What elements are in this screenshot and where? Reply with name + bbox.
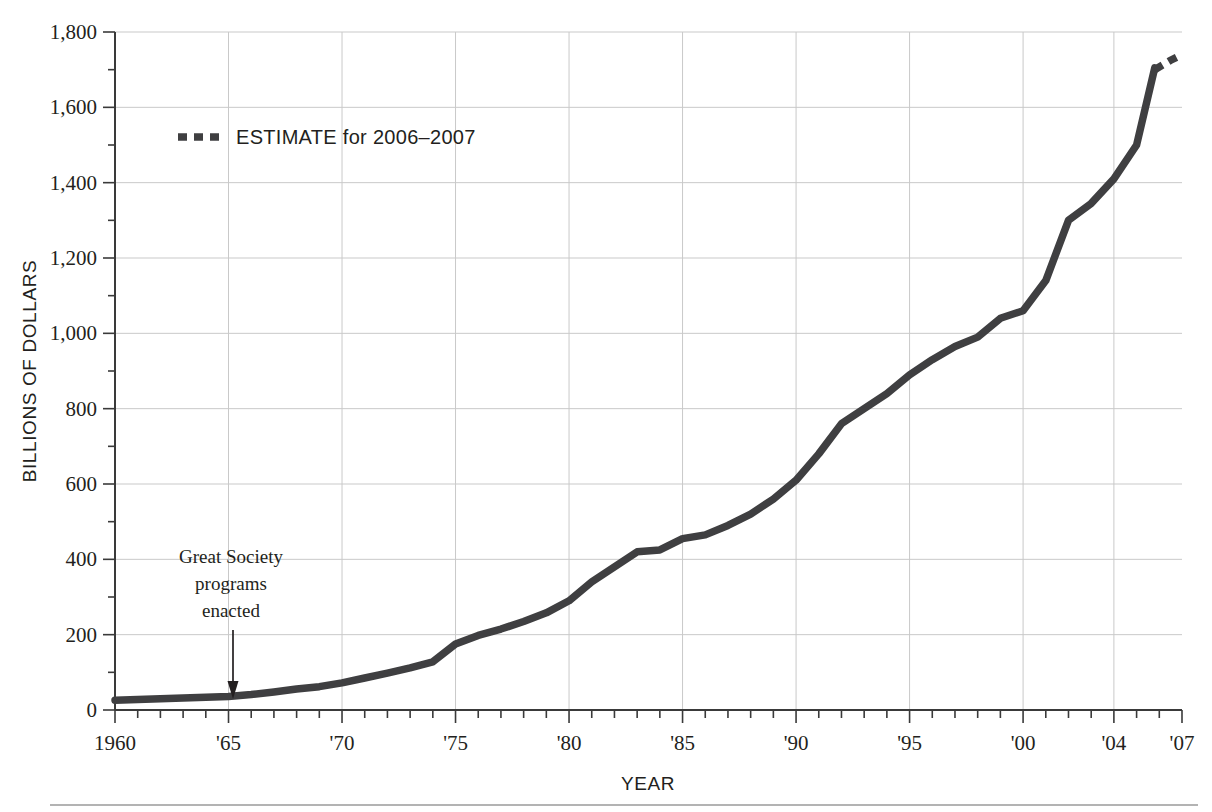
y-tick-label: 800 [66,397,98,421]
x-tick-label: '00 [1011,731,1036,755]
y-tick-label: 1,000 [50,321,97,345]
x-tick-label: '90 [784,731,809,755]
y-tick-label: 1,400 [50,171,97,195]
annotation-line-2: programs [195,573,267,594]
x-tick-label: '75 [443,731,468,755]
legend-label-estimate: ESTIMATE for 2006–2007 [236,126,476,148]
y-tick-label: 1,600 [50,95,97,119]
x-axis-title: YEAR [621,773,675,794]
x-tick-label: '70 [330,731,355,755]
spending-line-actual [115,68,1155,700]
x-tick-label: '80 [557,731,582,755]
x-axis-ticks [115,710,1182,723]
y-axis-ticks [103,32,115,710]
x-tick-label: '85 [670,731,695,755]
annotation-line-1: Great Society [179,546,283,567]
x-tick-label: 1960 [94,731,136,755]
x-tick-label: '07 [1170,731,1195,755]
legend: ESTIMATE for 2006–2007 [178,126,476,148]
y-tick-label: 0 [87,698,98,722]
y-tick-label: 600 [66,472,98,496]
y-tick-label: 200 [66,623,98,647]
line-chart: 02004006008001,0001,2001,4001,6001,800 1… [0,0,1212,812]
spending-line-estimate [1155,55,1182,70]
y-axis-tick-labels: 02004006008001,0001,2001,4001,6001,800 [50,20,97,722]
y-tick-label: 1,200 [50,246,97,270]
x-tick-label: '65 [216,731,241,755]
chart-container: 02004006008001,0001,2001,4001,6001,800 1… [0,0,1212,812]
horizontal-gridlines [115,32,1182,635]
annotation-line-3: enacted [202,600,261,621]
x-axis-tick-labels: 1960'65'70'75'80'85'90'95'00'04'07 [94,731,1194,755]
y-axis-title: BILLIONS OF DOLLARS [19,260,40,483]
annotation-great-society: Great Society programs enacted [179,546,283,699]
y-tick-label: 1,800 [50,20,97,44]
x-tick-label: '95 [897,731,922,755]
y-tick-label: 400 [66,547,98,571]
x-tick-label: '04 [1101,731,1126,755]
